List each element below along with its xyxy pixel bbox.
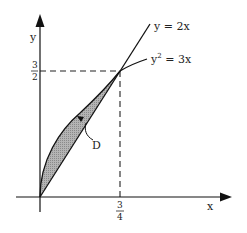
x-axis-arrow-icon [220,193,232,202]
parabola-label-rest: = 3x [162,53,192,66]
y-axis-label: y [29,31,37,44]
parabola-y2-equals-3x [40,59,147,197]
line-y-equals-2x [40,24,150,197]
x-tick-denominator: 4 [117,212,123,222]
x-axis-label: x [207,200,214,213]
x-tick-numerator: 3 [117,200,123,210]
parabola-label: y2 = 3x [150,52,192,66]
diagram-canvas: y x y = 2x y2 = 3x 3 2 3 4 D [0,0,247,233]
region-label: D [92,139,101,152]
region-pointer-arrow [85,123,93,140]
line-label: y = 2x [153,20,190,33]
y-tick-numerator: 3 [32,60,38,70]
y-tick-denominator: 2 [32,72,38,82]
y-axis-arrow-icon [36,14,45,27]
